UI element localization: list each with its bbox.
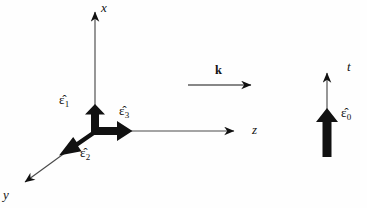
epsilon-0-subscript: 0 [346, 112, 351, 122]
k-vector-label: k [215, 64, 222, 77]
physics-diagram: x y z t k ε̂1 ε̂2 ε̂3 ε̂0 [0, 0, 367, 208]
y-axis-label: y [3, 188, 9, 201]
epsilon-3-subscript: 3 [124, 110, 129, 120]
z-axis-label: z [252, 123, 257, 136]
epsilon-0-arrow [316, 108, 338, 157]
epsilon-2-arrow [59, 128, 98, 156]
epsilon-0-label: ε̂0 [341, 106, 351, 122]
epsilon-1-subscript: 1 [64, 99, 69, 109]
diagram-canvas [0, 0, 367, 208]
t-axis-label: t [347, 60, 351, 73]
epsilon-1-label: ε̂1 [59, 93, 69, 109]
epsilon-2-subscript: 2 [85, 152, 90, 162]
axis-lines [25, 12, 327, 182]
epsilon-0-shape [316, 108, 338, 157]
epsilon-3-label: ε̂3 [119, 104, 129, 120]
epsilon-2-label: ε̂2 [80, 146, 90, 162]
x-axis-label: x [101, 1, 107, 14]
epsilon-2-shape [59, 128, 98, 156]
